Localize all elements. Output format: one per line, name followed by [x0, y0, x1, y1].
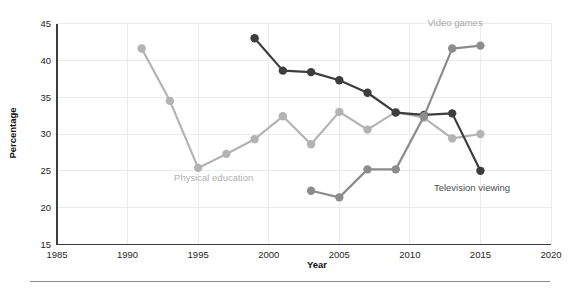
x-axis-title: Year	[307, 259, 327, 270]
y-tick-label: 45	[40, 18, 51, 29]
data-point	[137, 44, 145, 52]
data-point	[307, 187, 315, 195]
series-label: Video games	[427, 17, 483, 28]
x-tick-label: 2000	[258, 249, 279, 260]
x-tick-label: 1985	[46, 249, 67, 260]
data-point	[363, 165, 371, 173]
x-tick-label: 1990	[117, 249, 138, 260]
y-tick-label: 20	[40, 202, 51, 213]
data-point	[392, 165, 400, 173]
x-tick-label: 1995	[188, 249, 209, 260]
data-point	[448, 109, 456, 117]
data-point	[392, 108, 400, 116]
x-tick-label: 2015	[470, 249, 491, 260]
data-point	[476, 130, 484, 138]
y-axis-title: Percentage	[7, 107, 18, 158]
data-point	[363, 89, 371, 97]
x-tick-label: 2020	[540, 249, 561, 260]
data-point	[279, 66, 287, 74]
chart-figure: 19851990199520002005201020152020 1520253…	[0, 0, 580, 288]
data-point	[307, 68, 315, 76]
data-point	[363, 125, 371, 133]
data-point	[250, 135, 258, 143]
data-point	[335, 108, 343, 116]
data-point	[448, 44, 456, 52]
x-tick-label: 2010	[399, 249, 420, 260]
data-point	[335, 76, 343, 84]
data-point	[335, 193, 343, 201]
y-tick-label: 25	[40, 165, 51, 176]
data-point	[420, 112, 428, 120]
data-point	[279, 112, 287, 120]
data-point	[448, 134, 456, 142]
data-point	[194, 164, 202, 172]
series-label: Television viewing	[434, 182, 510, 193]
y-tick-label: 15	[40, 239, 51, 250]
data-point	[307, 140, 315, 148]
y-tick-label: 30	[40, 128, 51, 139]
data-point	[476, 41, 484, 49]
y-tick-label: 40	[40, 55, 51, 66]
series-label: Physical education	[174, 172, 253, 183]
x-tick-label: 2005	[329, 249, 350, 260]
data-point	[222, 150, 230, 158]
y-tick-label: 35	[40, 92, 51, 103]
line-chart: 19851990199520002005201020152020 1520253…	[0, 0, 580, 288]
data-point	[166, 97, 174, 105]
data-point	[250, 34, 258, 42]
data-point	[476, 167, 484, 175]
